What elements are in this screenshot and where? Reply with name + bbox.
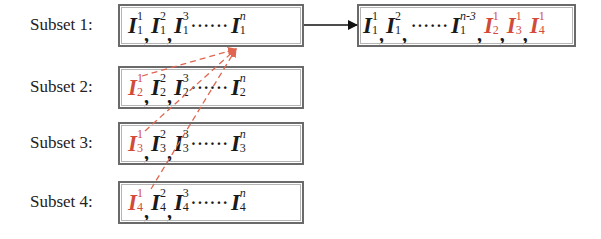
- math-term: I14: [128, 191, 143, 215]
- math-term: I21: [386, 14, 401, 38]
- math-term: In-31: [451, 14, 476, 38]
- math-term: In1: [231, 14, 246, 38]
- separator: ,: [144, 23, 149, 45]
- subset-1-box: I11,I21,I31······In1: [118, 4, 304, 47]
- math-term: In3: [231, 132, 246, 156]
- math-term: I31: [174, 14, 189, 38]
- separator: ,: [167, 200, 172, 222]
- math-term: I22: [151, 76, 166, 100]
- separator: ,: [402, 23, 407, 45]
- subset-3-label: Subset 3:: [30, 133, 93, 153]
- math-term: I24: [151, 191, 166, 215]
- ellipsis: ······: [191, 135, 229, 153]
- math-term: In2: [231, 76, 246, 100]
- math-term: I12: [128, 76, 143, 100]
- separator: ,: [477, 23, 482, 45]
- math-term: I34: [174, 191, 189, 215]
- math-term: I11: [363, 14, 378, 38]
- ellipsis: ······: [191, 79, 229, 97]
- ellipsis: ······: [191, 17, 229, 35]
- separator: ,: [167, 141, 172, 163]
- ellipsis: ······: [191, 194, 229, 212]
- subset-3-box: I13,I23,I33······In3: [118, 122, 304, 165]
- subset-1-label: Subset 1:: [30, 15, 93, 35]
- result-box: I11,I21,······In-31,I12,I13,I14: [357, 4, 576, 47]
- separator: ,: [144, 141, 149, 163]
- subset-2-box: I12,I22,I32······In2: [118, 66, 304, 109]
- math-term: I12: [484, 14, 499, 38]
- math-term: I32: [174, 76, 189, 100]
- math-term: I14: [530, 14, 545, 38]
- subset-2-label: Subset 2:: [30, 77, 93, 97]
- separator: ,: [167, 85, 172, 107]
- math-term: In4: [231, 191, 246, 215]
- math-term: I33: [174, 132, 189, 156]
- separator: ,: [500, 23, 505, 45]
- separator: ,: [144, 85, 149, 107]
- separator: ,: [523, 23, 528, 45]
- subset-4-box: I14,I24,I34······In4: [118, 181, 304, 224]
- math-term: I13: [507, 14, 522, 38]
- ellipsis: ······: [411, 17, 449, 35]
- separator: ,: [167, 23, 172, 45]
- math-term: I11: [128, 14, 143, 38]
- math-term: I21: [151, 14, 166, 38]
- math-term: I23: [151, 132, 166, 156]
- separator: ,: [379, 23, 384, 45]
- separator: ,: [144, 200, 149, 222]
- subset-4-label: Subset 4:: [30, 192, 93, 212]
- math-term: I13: [128, 132, 143, 156]
